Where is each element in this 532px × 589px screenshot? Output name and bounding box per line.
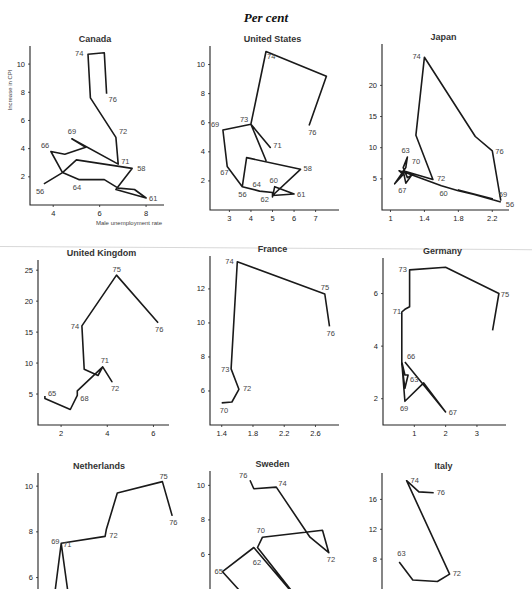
y-tick-label: 6 [201,118,205,127]
x-tick-label: 7 [314,214,318,223]
y-tick-label: 6 [201,550,205,559]
x-tick-label: 2 [444,429,448,438]
year-label: 71 [121,157,129,166]
x-tick-label: 6 [292,214,296,223]
panel-united-kingdom: United Kingdom51015202524665687172747576 [25,248,169,438]
year-label: 61 [297,190,305,199]
year-label: 72 [119,127,127,136]
year-label: 76 [327,329,335,338]
year-label: 58 [304,164,312,173]
year-label: 64 [253,180,261,189]
year-label: 72 [453,569,461,578]
year-label: 56 [36,187,44,196]
year-label: 69 [68,127,76,136]
y-tick-label: 4 [201,147,205,156]
year-label: 74 [267,52,275,61]
panel-italy: Italy8121663727476 [369,461,461,589]
year-label: 63 [397,549,405,558]
y-tick-label: 20 [369,81,377,90]
panel-title: Sweden [255,459,289,469]
year-label: 76 [495,147,503,156]
y-tick-label: 15 [369,112,377,121]
y-tick-label: 8 [201,89,205,98]
year-label: 74 [75,49,83,58]
year-label: 60 [439,189,447,198]
panel-united-states: United States246810345675658606162646769… [197,34,339,223]
year-label: 71 [101,356,109,365]
panel-japan: Japan510152011.41.82.2565960636770727476 [369,32,514,223]
year-label: 70 [412,157,420,166]
year-label: 74 [411,476,419,485]
trajectory-line [45,275,158,409]
x-tick-label: 4 [249,214,253,223]
x-tick-label: 5 [270,214,274,223]
trajectory-line [402,267,499,412]
year-label: 72 [111,384,119,393]
year-label: 72 [327,555,335,564]
y-tick-label: 2 [21,172,25,181]
x-tick-label: 3 [475,429,479,438]
x-tick-label: 4 [51,209,55,218]
y-tick-label: 8 [201,352,205,361]
x-axis-label: Male unemployment rate [96,220,163,226]
y-tick-label: 15 [25,328,33,337]
x-tick-label: 2.2 [487,214,497,223]
x-tick-label: 3 [227,214,231,223]
trajectory-line [222,262,330,403]
x-tick-label: 1.8 [248,429,258,438]
y-tick-label: 2 [374,394,378,403]
x-tick-label: 1 [388,214,392,223]
year-label: 63 [401,146,409,155]
year-label: 76 [109,95,117,104]
y-tick-label: 5 [373,174,377,183]
y-tick-label: 8 [29,527,33,536]
y-tick-label: 10 [25,482,33,491]
year-label: 76 [239,471,247,480]
year-label: 68 [80,394,88,403]
year-label: 74 [412,52,420,61]
x-tick-label: 4 [105,429,109,438]
y-tick-label: 10 [197,60,205,69]
panel-france: France6810121.41.82.22.6707273747576 [197,244,339,438]
y-tick-label: 25 [25,266,33,275]
year-label: 67 [449,408,457,417]
panel-title: Italy [434,461,452,471]
y-tick-label: 12 [369,525,377,534]
trajectory-line [223,480,329,589]
x-tick-label: 2.2 [279,429,289,438]
year-label: 74 [71,322,79,331]
year-label: 76 [437,488,445,497]
year-label: 70 [257,526,265,535]
panel-title: Germany [423,246,462,256]
year-label: 74 [225,257,233,266]
year-label: 73 [399,265,407,274]
y-tick-label: 8 [21,88,25,97]
x-tick-label: 8 [144,209,148,218]
year-label: 56 [238,190,246,199]
panel-title: United Kingdom [67,248,137,258]
year-label: 58 [137,164,145,173]
year-label: 71 [63,540,71,549]
x-tick-label: 1.4 [419,214,429,223]
year-label: 69 [211,120,219,129]
chart-grid: Canada246810468Increase in CPIMale unemp… [0,0,532,589]
year-label: 62 [261,195,269,204]
y-tick-label: 20 [25,297,33,306]
panel-canada: Canada246810468Increase in CPIMale unemp… [7,34,164,226]
y-axis-label: Increase in CPI [7,69,13,110]
x-tick-label: 1.4 [217,429,227,438]
y-tick-label: 4 [21,144,25,153]
year-label: 62 [253,558,261,567]
panel-title: United States [244,34,302,44]
year-label: 76 [155,325,163,334]
year-label: 65 [215,567,223,576]
axes [30,46,164,205]
trajectory-line [395,57,501,202]
year-label: 66 [41,141,49,150]
year-label: 75 [113,265,121,274]
trajectory-line [44,53,146,198]
year-label: 74 [278,479,286,488]
panel-netherlands: Netherlands68106971727576 [25,461,178,589]
year-label: 73 [240,115,248,124]
y-tick-label: 6 [21,116,25,125]
